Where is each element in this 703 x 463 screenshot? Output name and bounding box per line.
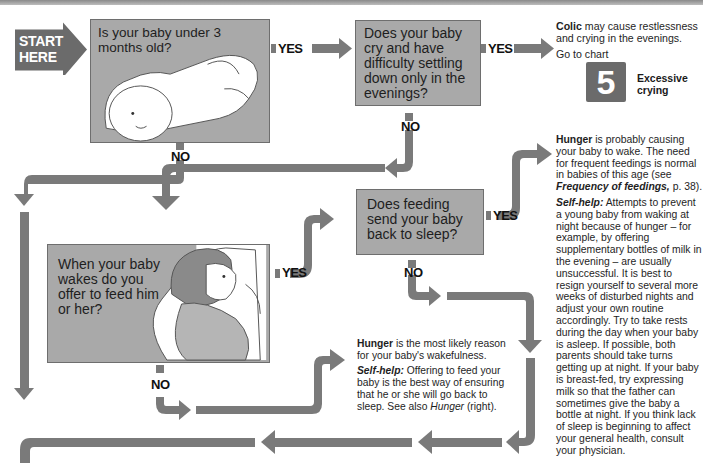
chart-5-link[interactable]: 5 [586, 62, 626, 102]
chart-title-line1: Excessive [637, 72, 688, 84]
start-here-label: START HERE [19, 33, 79, 65]
no-label: NO [404, 265, 423, 280]
chart-title: Excessive crying [637, 72, 688, 96]
yes-label: YES [278, 41, 303, 56]
question-box-evening-crying: Does your baby cry and have difficulty s… [355, 20, 481, 106]
selfhelp-label: Self-help: [556, 197, 603, 208]
question-text: Is your baby under 3 months old? [98, 25, 263, 55]
hunger-text2: p. 38). [670, 181, 702, 192]
question-text: When your baby wakes do you offer to fee… [58, 257, 163, 317]
question-text: Does feeding send your baby back to slee… [367, 197, 479, 242]
question-box-offer-feed: When your baby wakes do you offer to fee… [47, 244, 270, 363]
selfhelp-label: Self-help: [357, 365, 404, 376]
no-label: NO [401, 119, 420, 134]
hunger-probable-outcome: Hunger is probably causing your baby to … [556, 134, 703, 461]
hunger-likely-outcome: Hunger is the most likely reason for you… [357, 338, 507, 416]
selfhelp-tail: (right). [464, 401, 497, 412]
hunger-reference-link[interactable]: Hunger [430, 401, 464, 412]
hunger-heading: Hunger [357, 338, 393, 349]
no-label: NO [171, 149, 190, 164]
yes-label: YES [488, 41, 513, 56]
question-text: Does your baby cry and have difficulty s… [364, 26, 476, 101]
yes-label: YES [282, 265, 307, 280]
question-box-under-3-months: Is your baby under 3 months old? [90, 19, 270, 143]
yes-label: YES [493, 208, 518, 223]
frequency-feedings-link[interactable]: Frequency of feedings, [556, 181, 670, 192]
colic-outcome: Colic may cause restlessness and crying … [556, 20, 703, 64]
question-box-feeding-sleep: Does feeding send your baby back to slee… [356, 189, 484, 255]
chart-title-line2: crying [637, 84, 688, 96]
selfhelp-text: Attempts to prevent a young baby from wa… [556, 197, 702, 456]
no-label: NO [151, 377, 170, 392]
hunger-heading: Hunger [556, 134, 592, 145]
start-label-line2: HERE [19, 49, 79, 65]
colic-heading: Colic [556, 20, 582, 32]
start-label-line1: START [19, 33, 79, 49]
goto-chart-text: Go to chart [556, 48, 703, 60]
